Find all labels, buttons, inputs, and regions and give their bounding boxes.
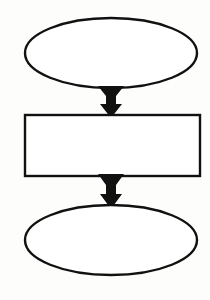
end-ellipse-shape[interactable] — [25, 205, 197, 275]
node-process[interactable] — [25, 115, 200, 176]
connector-start-to-process — [98, 86, 124, 118]
node-start[interactable] — [25, 18, 197, 88]
node-end[interactable] — [25, 205, 197, 275]
start-ellipse-shape[interactable] — [25, 18, 197, 88]
connector-process-to-end — [98, 174, 124, 209]
flowchart-svg — [0, 0, 210, 300]
flowchart-canvas — [0, 0, 210, 300]
arrow-down-icon — [98, 174, 124, 209]
arrow-down-icon — [98, 86, 124, 118]
process-rectangle-shape[interactable] — [25, 115, 200, 176]
